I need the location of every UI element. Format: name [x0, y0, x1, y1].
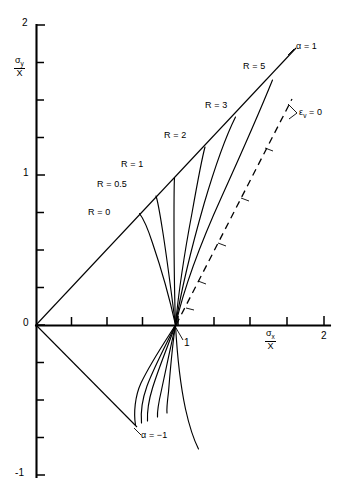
epsilon-v-zero-label: εv = 0 — [299, 108, 322, 119]
y-axis-title-denominator: X — [14, 68, 25, 78]
series-label-R0: R = 0 — [88, 208, 110, 217]
alpha-positive-one-label: α = 1 — [296, 42, 317, 51]
y-axis-title: σy X — [14, 56, 25, 78]
alpha-negative-one-ray — [36, 325, 137, 427]
curve-R0-upper — [140, 214, 176, 326]
series-label-R5: R = 5 — [243, 62, 265, 71]
alpha-positive-one-ray — [36, 48, 296, 325]
x-axis-title-sub: x — [272, 333, 275, 340]
y-axis-group — [37, 25, 46, 477]
series-label-R3: R = 3 — [205, 101, 227, 110]
chart-figure: 2 1 0 -1 σy X 1 2 σx X R = 0 R = 0.5 R =… — [0, 0, 352, 489]
curve-R0p5-upper — [156, 196, 176, 325]
y-tick-label-1: 1 — [23, 168, 29, 178]
curve-R5-upper — [176, 80, 273, 325]
series-label-R0p5: R = 0.5 — [97, 180, 127, 189]
x-axis-title: σx X — [265, 329, 276, 351]
epsilon-label-leader2 — [289, 113, 297, 119]
series-label-R2: R = 2 — [164, 131, 186, 140]
plot-canvas — [0, 0, 352, 489]
curve-R1-upper — [174, 178, 176, 325]
y-tick-label-0: 0 — [23, 318, 29, 328]
alpha-negative-one-label: α = −1 — [141, 431, 167, 440]
x-tick-label-1: 1 — [184, 338, 190, 348]
series-label-R1: R = 1 — [121, 160, 143, 169]
y-tick-label-2: 2 — [22, 18, 28, 28]
alpha-minus-one-leader — [134, 428, 141, 435]
epsilon-v-zero-line — [176, 99, 292, 325]
convergence-label-leader — [176, 328, 183, 340]
y-axis-title-sub: y — [21, 60, 24, 67]
epsilon-rest: = 0 — [306, 107, 322, 117]
y-tick-label-minus-1: -1 — [15, 468, 24, 478]
x-axis-title-denominator: X — [265, 341, 276, 351]
epsilon-label-leader — [288, 104, 297, 113]
x-tick-label-2: 2 — [321, 331, 327, 341]
x-axis-group — [36, 316, 330, 326]
curve-R1-lower — [147, 325, 175, 421]
